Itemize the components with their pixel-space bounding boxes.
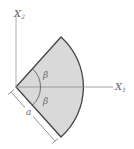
x1-axis-label: X1 bbox=[114, 81, 126, 93]
angle-label-lower: β bbox=[42, 96, 48, 106]
angle-label-upper: β bbox=[42, 70, 48, 80]
x2-axis-label: X2 bbox=[13, 8, 25, 20]
dimension-tick-start bbox=[8, 90, 14, 95]
sector-diagram: X2 X1 β β a bbox=[0, 0, 134, 149]
dimension-label-a: a bbox=[26, 107, 31, 117]
dimension-tick-end bbox=[52, 139, 58, 144]
